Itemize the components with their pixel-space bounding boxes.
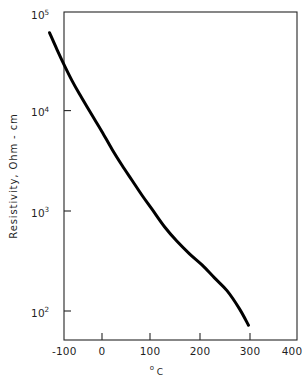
y-tick-label-1e4-exponent: 4 bbox=[45, 105, 50, 114]
y-tick-labels: 10 5 10 4 10 3 10 2 bbox=[31, 8, 50, 319]
x-axis-title-degree: o bbox=[150, 364, 154, 372]
y-axis-title: Resistivity, Ohm - cm bbox=[8, 113, 19, 239]
y-tick-label-1e5-exponent: 5 bbox=[45, 8, 50, 17]
x-tick-label-200: 200 bbox=[190, 345, 211, 357]
y-tick-label-1e2: 10 bbox=[31, 307, 45, 319]
x-tick-labels: -100 0 100 200 300 400 bbox=[52, 345, 302, 357]
y-tick-label-1e2-exponent: 2 bbox=[45, 305, 50, 314]
x-tick-label-100: 100 bbox=[140, 345, 161, 357]
y-tick-label-1e4: 10 bbox=[31, 106, 45, 118]
x-tick-label-neg100: -100 bbox=[52, 345, 77, 357]
resistivity-curve bbox=[50, 33, 249, 326]
x-tick-label-300: 300 bbox=[240, 345, 261, 357]
chart-plot-area: 10 5 10 4 10 3 10 2 -100 0 100 200 300 4… bbox=[0, 0, 306, 383]
x-tick-label-400: 400 bbox=[282, 345, 303, 357]
y-tick-label-1e3-exponent: 3 bbox=[45, 205, 50, 214]
y-axis-ticks bbox=[64, 111, 71, 311]
x-axis-ticks bbox=[102, 333, 250, 340]
y-tick-label-1e5: 10 bbox=[31, 9, 45, 21]
x-axis-title-unit: C bbox=[157, 367, 163, 377]
plot-frame bbox=[64, 12, 297, 340]
chart-figure: 10 5 10 4 10 3 10 2 -100 0 100 200 300 4… bbox=[0, 0, 306, 383]
y-tick-label-1e3: 10 bbox=[31, 207, 45, 219]
x-axis-title: o C bbox=[150, 364, 163, 377]
x-tick-label-0: 0 bbox=[99, 345, 106, 357]
